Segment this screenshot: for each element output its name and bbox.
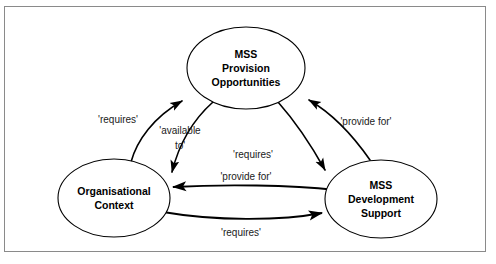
edge-support-to-opportunities: 'provide for' bbox=[309, 100, 392, 160]
edge-label-available-to-line1: 'available bbox=[159, 125, 201, 136]
node-label-line2: Context bbox=[94, 199, 134, 211]
edge-arrow-line bbox=[173, 185, 336, 190]
node-label-line1: Organisational bbox=[77, 185, 151, 197]
edge-label-requires-left: 'requires' bbox=[98, 114, 138, 125]
node-label-line2: Development bbox=[348, 193, 414, 205]
diagram-page: 'requires' 'available to' 'provide for' … bbox=[0, 0, 496, 264]
edge-label-requires-bottom: 'requires' bbox=[221, 227, 261, 238]
node-mss-provision-opportunities[interactable]: MSS Provision Opportunities bbox=[187, 27, 305, 109]
edge-label-provide-for-right: 'provide for' bbox=[340, 116, 391, 127]
relationship-diagram: 'requires' 'available to' 'provide for' … bbox=[0, 0, 496, 264]
node-label-line1: MSS bbox=[235, 48, 258, 60]
edge-arrow-line bbox=[278, 102, 325, 170]
edge-opportunities-to-support: 'requires' bbox=[233, 102, 325, 170]
edge-opportunities-to-context: 'available to' bbox=[159, 102, 213, 172]
node-organisational-context[interactable]: Organisational Context bbox=[58, 159, 170, 237]
node-label-line2: Provision bbox=[222, 62, 270, 74]
node-label-line1: MSS bbox=[370, 179, 393, 191]
edge-label-available-to-line2: to' bbox=[175, 140, 185, 151]
edge-arrow-line bbox=[172, 102, 213, 172]
edge-support-to-context: 'provide for' bbox=[173, 171, 336, 190]
node-label-line3: Support bbox=[361, 207, 402, 219]
node-mss-development-support[interactable]: MSS Development Support bbox=[325, 160, 437, 238]
edge-label-requires-center: 'requires' bbox=[233, 149, 273, 160]
node-label-line3: Opportunities bbox=[212, 76, 281, 88]
edge-context-to-support: 'requires' bbox=[163, 212, 322, 238]
edge-arrow-line bbox=[309, 100, 370, 160]
edge-arrow-line bbox=[163, 212, 322, 219]
edge-label-provide-for-center: 'provide for' bbox=[220, 171, 271, 182]
